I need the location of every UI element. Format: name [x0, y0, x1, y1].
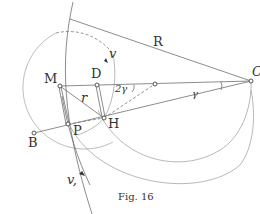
angle-2gamma-arc	[132, 85, 134, 92]
point-d	[95, 83, 99, 87]
point-h	[102, 116, 106, 120]
figure-16-diagram: M D O H P B R r v v, 2γ γ Fig. 16	[0, 0, 260, 214]
point-o	[249, 79, 253, 83]
label-2gamma: 2γ	[114, 83, 127, 94]
point-m	[58, 84, 62, 88]
line-d-h-b	[99, 86, 105, 117]
arrow-v-icon	[104, 58, 108, 63]
label-m: M	[44, 71, 57, 86]
label-r-small: r	[81, 90, 88, 105]
angle-gamma-arc	[221, 82, 222, 90]
label-v: v	[109, 46, 117, 61]
dashed-h-c	[104, 84, 155, 118]
label-v1: v,	[67, 172, 77, 187]
label-p: P	[73, 123, 82, 138]
point-p	[66, 122, 70, 126]
label-r-big: R	[153, 34, 164, 49]
arc-lower-outer	[70, 90, 254, 184]
label-gamma: γ	[192, 88, 198, 99]
label-b: B	[28, 135, 38, 150]
figure-caption: Fig. 16	[118, 191, 154, 202]
point-c	[153, 82, 157, 86]
label-h: H	[108, 116, 119, 131]
label-o: O	[252, 64, 260, 79]
label-d: D	[91, 66, 101, 81]
